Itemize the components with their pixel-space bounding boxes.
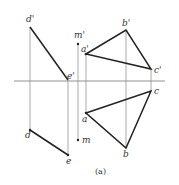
label-c-prime: c' <box>154 65 162 75</box>
label-a: a <box>82 114 87 124</box>
line-de-top <box>30 130 68 155</box>
point-m-prime <box>77 43 79 45</box>
label-a-prime: a' <box>81 44 89 54</box>
triangle-abc-top <box>86 91 151 148</box>
label-c: c <box>154 86 159 96</box>
label-e: e <box>66 156 71 166</box>
label-e-prime: e' <box>67 71 75 81</box>
label-d: d <box>25 130 31 140</box>
line-de-front <box>30 27 68 80</box>
label-d-prime: d' <box>26 14 34 24</box>
point-m <box>77 139 79 141</box>
label-b-prime: b' <box>122 18 130 28</box>
projection-diagram: d' e' m' a' b' c' d e m a b c (a) <box>0 0 179 185</box>
triangle-abc-front <box>86 30 151 69</box>
label-m: m <box>82 135 91 145</box>
figure-caption: (a) <box>95 167 106 176</box>
label-m-prime: m' <box>74 30 85 40</box>
label-b: b <box>123 149 129 159</box>
